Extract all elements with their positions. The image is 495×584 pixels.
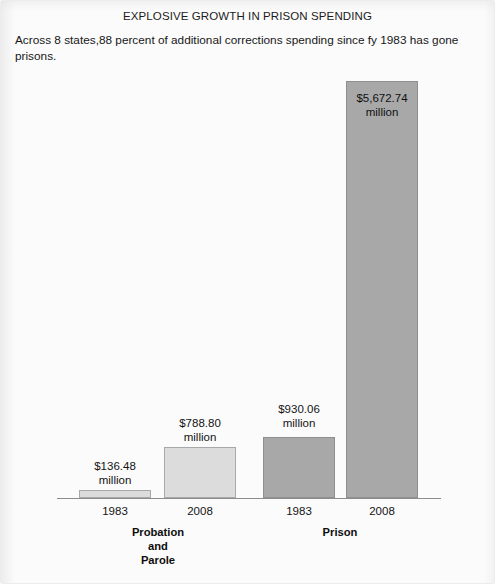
bar-value-prison-1983: $930.06 million — [244, 402, 354, 430]
tick-label-probation-2008: 2008 — [160, 505, 240, 517]
group-label-line-3: Parole — [141, 554, 175, 566]
bar-value-amount: $136.48 — [94, 460, 136, 472]
group-label-prison: Prison — [300, 525, 380, 539]
bar-value-probation-2008: $788.80 million — [145, 416, 255, 444]
bar-value-unit: million — [184, 431, 217, 443]
group-label-line-1: Probation — [132, 526, 184, 538]
x-axis-line — [57, 498, 441, 499]
bar-value-prison-2008: $5,672.74 million — [332, 91, 432, 119]
bar-value-unit: million — [366, 106, 399, 118]
plot-area: $136.48 million $788.80 million $930.06 … — [1, 1, 495, 584]
bar-prison-1983 — [263, 437, 335, 498]
bar-value-unit: million — [283, 417, 316, 429]
bar-value-amount: $788.80 — [179, 417, 221, 429]
bar-value-amount: $930.06 — [278, 403, 320, 415]
group-label-line-2: and — [148, 540, 168, 552]
bar-value-unit: million — [99, 474, 132, 486]
bar-probation-1983 — [79, 490, 151, 498]
tick-label-prison-2008: 2008 — [342, 505, 422, 517]
chart-page: EXPLOSIVE GROWTH IN PRISON SPENDING Acro… — [0, 0, 495, 584]
group-label-probation-and-parole: Probation and Parole — [118, 525, 198, 567]
tick-label-prison-1983: 1983 — [259, 505, 339, 517]
bar-value-probation-1983: $136.48 million — [60, 459, 170, 487]
bar-prison-2008 — [346, 81, 418, 498]
bar-value-amount: $5,672.74 — [356, 92, 407, 104]
bar-probation-2008 — [164, 447, 236, 498]
tick-label-probation-1983: 1983 — [75, 505, 155, 517]
